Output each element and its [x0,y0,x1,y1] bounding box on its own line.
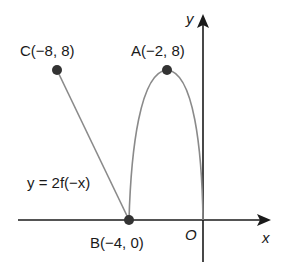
curve-label: y = 2f(−x) [27,174,90,191]
point-b [124,215,134,225]
label-b: B(−4, 0) [90,234,144,251]
label-a: A(−2, 8) [131,42,185,59]
curve-b-a-o [129,70,203,220]
origin-label: O [185,226,197,243]
graph: C(−8, 8) A(−2, 8) B(−4, 0) y = 2f(−x) y … [0,0,289,273]
x-axis-label: x [261,229,270,246]
point-c [52,65,62,75]
segment-c-b [57,70,129,220]
point-a [162,65,172,75]
y-axis-label: y [185,10,195,27]
label-c: C(−8, 8) [20,42,75,59]
